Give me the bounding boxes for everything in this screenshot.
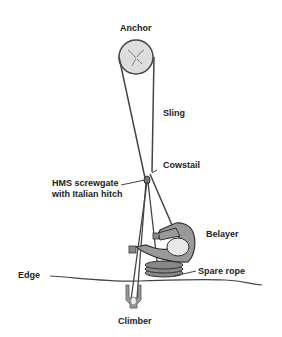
edge-label: Edge [18,270,40,281]
cowstail-line [150,174,172,225]
hms-label-line2: with Italian hitch [52,189,123,200]
anchor-icon [119,40,153,74]
hms-label-line1: HMS screwgate [52,178,123,189]
sling-line [119,57,154,178]
sling-label: Sling [163,108,185,119]
hms-label: HMS screwgate with Italian hitch [52,178,123,200]
hms-leader [121,180,145,185]
climber-label: Climber [118,316,152,327]
spare-rope-coil [145,261,183,277]
spare-rope-label: Spare rope [198,266,245,277]
rope-lines [131,182,158,300]
anchor-label: Anchor [120,23,152,34]
belayer-label: Belayer [206,229,239,240]
climber-figure [126,285,141,308]
edge-line [50,276,262,285]
cowstail-label: Cowstail [163,160,200,171]
belay-diagram [0,0,282,337]
